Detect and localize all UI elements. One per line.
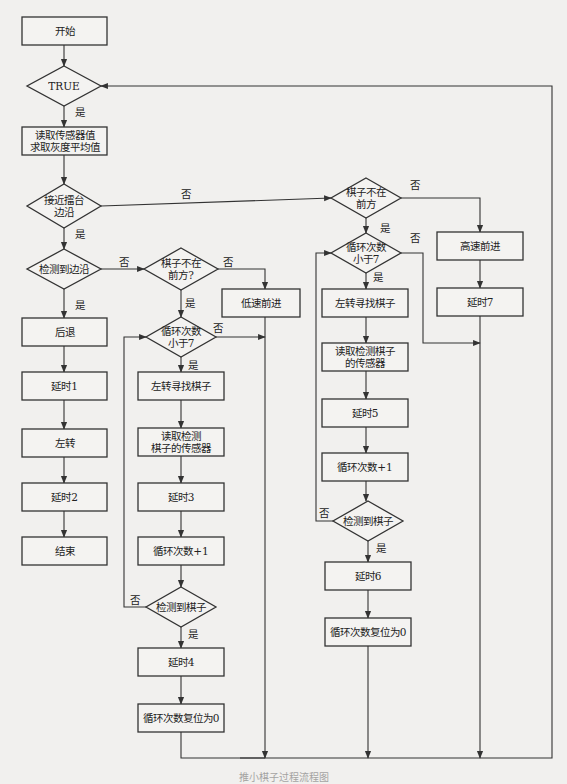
edge-label-no: 否 (410, 232, 421, 244)
decision-piece-not-front-b: 棋子不在前方 (331, 178, 401, 218)
edge-label-no: 否 (119, 256, 130, 268)
process-fast-forward: 高速前进 (437, 232, 523, 260)
process-delay3: 延时3 (138, 483, 224, 511)
edge-label-yes: 是 (185, 297, 196, 309)
node-label: 左转寻找棋子 (335, 297, 395, 309)
node-label: 检测到棋子 (156, 601, 206, 613)
node-label: 检测到边沿 (39, 263, 89, 275)
flow-connector (401, 198, 480, 232)
node-label: 求取灰度平均值 (30, 141, 101, 153)
node-label: 延时5 (352, 407, 379, 419)
node-label: 低速前进 (241, 297, 282, 309)
process-delay2: 延时2 (22, 483, 107, 511)
node-label: 棋子不在 (161, 257, 201, 269)
node-label: 棋子不在 (346, 186, 386, 198)
edge-label-no: 否 (319, 507, 330, 519)
node-label: 左转 (55, 437, 76, 449)
edge-label-no: 否 (181, 188, 192, 200)
process-turn-left: 左转 (22, 429, 107, 457)
node-label: 循环次数 (346, 241, 387, 253)
process-delay6: 延时6 (325, 562, 411, 590)
node-label: 的传感器 (345, 357, 386, 369)
flow-connector (181, 732, 265, 758)
nodes-layer: 开始TRUE读取传感器值求取灰度平均值接近擂台边沿检测到边沿后退延时1左转延时2… (22, 17, 523, 732)
node-label: 延时6 (355, 570, 382, 582)
node-label: TRUE (48, 80, 79, 92)
node-label: 前方? (168, 269, 194, 281)
node-label: 小于7 (353, 253, 380, 265)
edge-label-yes: 是 (75, 299, 86, 311)
process-start: 开始 (22, 17, 107, 45)
edge-label-no: 否 (223, 256, 234, 268)
edge-label-yes: 是 (373, 271, 384, 283)
decision-edge-detected: 检测到边沿 (27, 249, 101, 289)
decision-piece-found-b: 检测到棋子 (333, 501, 403, 541)
decision-piece-not-front-a: 棋子不在前方? (144, 248, 218, 290)
decision-loop-lt7-a: 循环次数小于7 (146, 317, 216, 357)
node-label: 延时1 (51, 380, 78, 392)
node-label: 左转寻找棋子 (151, 380, 211, 392)
process-delay1: 延时1 (22, 372, 107, 400)
node-label: 前方 (356, 198, 376, 210)
edge-label-no: 否 (130, 594, 141, 606)
node-label: 延时2 (51, 491, 78, 503)
process-read-piece-a: 读取检测棋子的传感器 (138, 428, 224, 456)
process-loop-inc-b: 循环次数+1 (322, 453, 408, 481)
node-label: 读取检测 (161, 430, 201, 442)
process-delay7: 延时7 (437, 288, 523, 316)
edge-label-yes: 是 (188, 359, 199, 371)
edges-layer (64, 45, 552, 758)
node-label: 延时4 (168, 656, 195, 668)
process-read-piece-b: 读取检测棋子的传感器 (322, 343, 408, 371)
edge-label-yes: 是 (376, 542, 387, 554)
process-delay4: 延时4 (138, 648, 224, 676)
process-loop-inc-a: 循环次数+1 (138, 537, 224, 565)
node-label: 接近擂台 (44, 194, 84, 206)
node-label: 检测到棋子 (343, 515, 393, 527)
process-read-sensors: 读取传感器值求取灰度平均值 (22, 127, 107, 155)
decision-near-edge: 接近擂台边沿 (27, 184, 101, 228)
node-label: 边沿 (54, 206, 74, 218)
node-label: 高速前进 (460, 240, 501, 252)
edge-label-yes: 是 (75, 106, 86, 118)
decision-true: TRUE (27, 66, 101, 106)
flow-connector (218, 269, 265, 289)
node-label: 小于7 (168, 337, 195, 349)
node-label: 循环次数+1 (337, 461, 392, 473)
process-retreat: 后退 (22, 318, 107, 346)
edge-label-yes: 是 (75, 228, 86, 240)
node-label: 开始 (55, 25, 76, 37)
process-delay5: 延时5 (322, 399, 408, 427)
node-label: 延时3 (168, 491, 195, 503)
node-label: 循环次数复位为0 (143, 712, 220, 724)
node-label: 循环次数+1 (153, 545, 208, 557)
node-label: 读取检测棋子 (335, 345, 395, 357)
flow-connector (101, 198, 331, 206)
process-turn-search-a: 左转寻找棋子 (138, 372, 224, 400)
figure-caption: 推小棋子过程流程图 (0, 769, 567, 784)
node-label: 延时7 (467, 296, 494, 308)
node-label: 结束 (55, 545, 76, 557)
node-label: 棋子的传感器 (151, 442, 212, 454)
decision-loop-lt7-b: 循环次数小于7 (331, 233, 401, 273)
node-label: 循环次数复位为0 (330, 626, 407, 638)
process-slow-forward: 低速前进 (222, 289, 300, 317)
process-loop-reset-a: 循环次数复位为0 (138, 704, 224, 732)
edge-label-no: 否 (410, 179, 421, 191)
decision-piece-found-a: 检测到棋子 (146, 587, 216, 627)
process-loop-reset-b: 循环次数复位为0 (325, 618, 411, 646)
node-label: 读取传感器值 (35, 129, 96, 141)
node-label: 循环次数 (161, 325, 202, 337)
edge-label-yes: 是 (380, 222, 391, 234)
process-turn-search-b: 左转寻找棋子 (322, 289, 408, 317)
edge-label-yes: 是 (188, 628, 199, 640)
edge-label-no: 否 (213, 322, 224, 334)
node-label: 后退 (55, 326, 76, 338)
process-end: 结束 (22, 537, 107, 565)
